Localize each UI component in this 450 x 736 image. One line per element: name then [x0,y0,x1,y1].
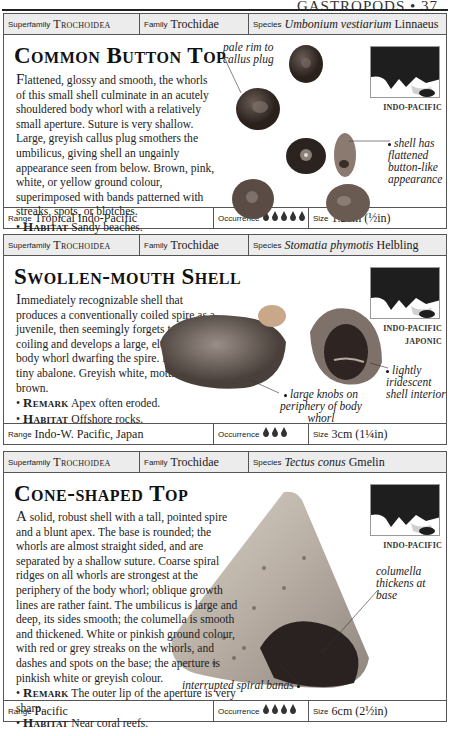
species-author: Linnaeus [394,17,438,31]
shell-photo-5 [230,177,276,221]
annotation-columella: columella thickens at base [376,565,438,601]
annotation-iridescent: lightly iridescent shell interior [386,364,446,400]
superfamily-value: Trochoidea [53,17,110,31]
range-map [370,46,440,98]
world-map-icon [371,268,440,319]
world-map-icon [371,47,440,98]
entry-description: A solid, robust shell with a tall, point… [16,509,244,732]
family-value: Trochidae [171,455,219,469]
world-map-icon [371,485,440,536]
family-value: Trochidae [171,238,219,252]
top-rule [2,9,448,11]
shell-icon [280,427,288,437]
superfamily-value: Trochoidea [53,238,110,252]
entry-title: Common Button Top [14,44,226,68]
entry-swollen-mouth-shell: SuperfamilyTrochoidea FamilyTrochidae Sp… [3,234,447,445]
classification-bar: SuperfamilyTrochoidea FamilyTrochidae Sp… [4,235,446,256]
shell-icon [289,704,297,714]
species-binomial: Umbonium vestiarium [284,17,391,31]
shell-icon [298,211,306,221]
shell-icon [289,211,297,221]
map-caption: INDO-PACIFIC [370,101,442,114]
shell-photo-top-view [154,302,294,392]
size-value: 6cm (2½in) [332,704,388,718]
occurrence-shell-icons [262,704,298,719]
entry-body: Swollen-mouth Shell Immediately recogniz… [4,256,446,423]
entry-body: Cone-shaped Top A solid, robust shell wi… [4,473,446,700]
species-author: Helbling [376,238,418,252]
map-caption: INDO-PACIFICJAPONIC [360,322,442,348]
shell-photo-6 [324,181,372,225]
entry-body: Common Button Top Flattened, glossy and … [4,35,446,207]
occurrence-shell-icons [262,427,289,442]
shell-photo-1 [234,85,282,133]
family-cell: FamilyTrochidae [140,235,249,255]
range-map [370,267,440,319]
habitat-line: • Habitat Offshore rocks. [16,412,221,428]
annotation-large-knobs: large knobs on periphery of body whorl [276,388,366,424]
species-cell: SpeciesTectus conus Gmelin [249,452,446,472]
shell-icon [262,704,270,714]
family-cell: FamilyTrochidae [140,14,249,34]
map-caption: INDO-PACIFIC [370,539,442,552]
shell-icon [280,211,288,221]
species-cell: SpeciesStomatia phymotis Helbling [249,235,446,255]
shell-icon [280,704,288,714]
superfamily-cell: SuperfamilyTrochoidea [4,452,140,472]
superfamily-cell: SuperfamilyTrochoidea [4,14,140,34]
family-value: Trochidae [171,17,219,31]
superfamily-value: Trochoidea [53,455,110,469]
shell-photo-3 [284,135,328,177]
shell-photo-4 [332,131,358,179]
annotation-pale-rim: pale rim to callus plug [223,41,293,65]
remark-line: • Remark Apex often eroded. [16,396,221,412]
shell-icon [262,427,270,437]
occurrence-cell: Occurrence [214,424,309,444]
entry-title: Cone-shaped Top [14,482,188,506]
annotation-spiral-bands: interrupted spiral bands [182,679,332,691]
species-cell: SpeciesUmbonium vestiarium Linnaeus [249,14,446,34]
shell-icon [271,427,279,437]
entry-cone-shaped-top: SuperfamilyTrochoidea FamilyTrochidae Sp… [3,451,447,722]
size-value: 3cm (1¼in) [332,427,388,441]
superfamily-cell: SuperfamilyTrochoidea [4,235,140,255]
shell-icon [271,704,279,714]
size-cell: Size6cm (2½in) [309,701,446,721]
annotation-flattened: shell has flattened button-like appearan… [388,137,448,185]
range-map [370,484,440,536]
entry-description: Flattened, glossy and smooth, the whorls… [16,72,216,236]
species-binomial: Stomatia phymotis [284,238,373,252]
habitat-line: • Habitat Near coral reefs. [16,716,244,732]
range-value: Indo-W. Pacific, Japan [35,427,144,441]
classification-bar: SuperfamilyTrochoidea FamilyTrochidae Sp… [4,452,446,473]
entry-title: Swollen-mouth Shell [14,265,241,289]
family-cell: FamilyTrochidae [140,452,249,472]
size-cell: Size3cm (1¼in) [309,424,446,444]
species-author: Gmelin [349,455,385,469]
classification-bar: SuperfamilyTrochoidea FamilyTrochidae Sp… [4,14,446,35]
species-binomial: Tectus conus [284,455,345,469]
entry-common-button-top: SuperfamilyTrochoidea FamilyTrochidae Sp… [3,13,447,229]
